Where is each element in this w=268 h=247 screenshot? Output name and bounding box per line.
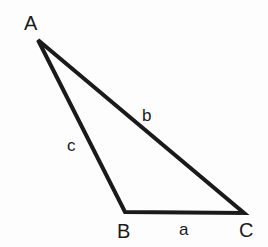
triangle-outline — [38, 40, 244, 213]
vertex-label-b: B — [117, 221, 131, 241]
triangle-diagram: A B C a b c — [0, 0, 268, 247]
triangle-svg — [0, 0, 268, 247]
side-label-a: a — [179, 221, 188, 238]
side-label-c: c — [67, 137, 76, 154]
side-label-b: b — [142, 107, 151, 124]
vertex-label-c: C — [239, 220, 254, 240]
vertex-label-a: A — [24, 13, 38, 33]
